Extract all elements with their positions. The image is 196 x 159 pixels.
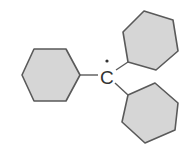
radical-dot-icon xyxy=(105,59,108,62)
phenyl-ring-left xyxy=(22,49,80,101)
triphenylmethyl-radical-diagram: C xyxy=(0,0,196,159)
bond-upper-right xyxy=(116,62,128,70)
central-carbon-label: C xyxy=(100,67,114,88)
phenyl-ring-lower-right xyxy=(122,83,178,143)
bond-lower-right xyxy=(115,83,128,95)
phenyl-ring-upper-right xyxy=(123,11,178,70)
